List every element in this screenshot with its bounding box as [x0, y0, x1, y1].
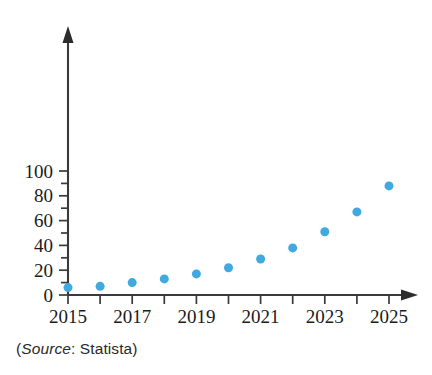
- data-point: [160, 274, 169, 283]
- data-point: [288, 243, 297, 252]
- caption-source-name: Statista: [75, 340, 132, 357]
- source-caption: (Source: Statista): [16, 340, 138, 358]
- data-point: [96, 282, 105, 291]
- x-tick-label: 2021: [242, 306, 280, 327]
- y-tick-label: 80: [34, 185, 53, 206]
- x-tick-label: 2023: [306, 306, 344, 327]
- x-tick-labels: 201520172019202120232025: [49, 306, 408, 327]
- y-tick-label: 60: [34, 210, 53, 231]
- data-point-series: [64, 181, 394, 292]
- x-tick-label: 2019: [177, 306, 215, 327]
- y-tick-labels: 020406080100: [25, 161, 54, 306]
- caption-source-word: Source: [21, 340, 71, 357]
- x-axis: 201520172019202120232025: [49, 290, 418, 328]
- y-tick-marks: [59, 171, 68, 295]
- data-point: [385, 181, 394, 190]
- x-tick-marks: [68, 295, 389, 304]
- data-point: [64, 283, 73, 292]
- data-point: [352, 207, 361, 216]
- y-tick-label: 100: [25, 161, 54, 182]
- x-tick-label: 2025: [370, 306, 408, 327]
- y-tick-label: 0: [44, 285, 54, 306]
- x-tick-label: 2017: [113, 306, 151, 327]
- y-tick-label: 20: [34, 260, 53, 281]
- x-axis-arrow-icon: [401, 290, 418, 301]
- y-axis: 020406080100: [25, 26, 74, 306]
- y-tick-label: 40: [34, 235, 53, 256]
- data-point: [224, 263, 233, 272]
- data-point: [320, 227, 329, 236]
- data-point: [256, 255, 265, 264]
- scatter-plot: 020406080100 201520172019202120232025: [0, 0, 432, 340]
- x-tick-label: 2015: [49, 306, 87, 327]
- chart-figure: 020406080100 201520172019202120232025 (S…: [0, 0, 432, 375]
- data-point: [192, 269, 201, 278]
- data-point: [128, 278, 137, 287]
- y-axis-arrow-icon: [63, 26, 74, 43]
- caption-close-paren: ): [132, 340, 137, 357]
